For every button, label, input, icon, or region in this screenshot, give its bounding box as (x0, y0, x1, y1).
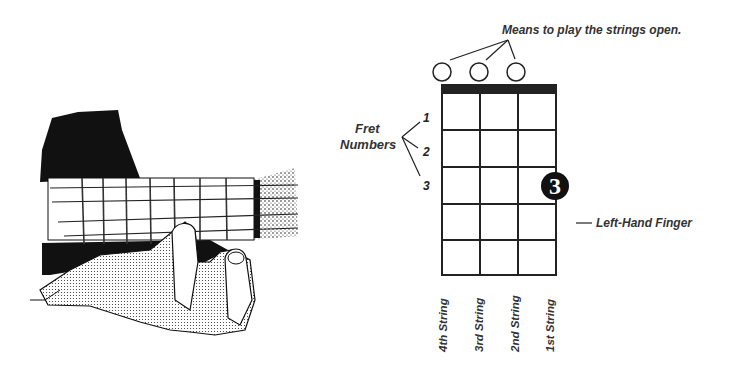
fret-numbers-label-line2: Numbers (340, 137, 396, 152)
fret-grid (442, 85, 556, 275)
open-strings-label: Means to play the strings open. (502, 23, 681, 37)
string-label-1st: 1st String (544, 299, 556, 352)
string-label-3rd: 3rd String (473, 298, 485, 352)
fret-numbers-label-line1: Fret (355, 121, 380, 136)
finger-marker-3: 3 (541, 172, 569, 200)
nut (442, 85, 556, 94)
open-string-circle-4th (433, 63, 451, 81)
string-label-2nd: 2nd String (509, 295, 521, 352)
open-string-markers (433, 63, 525, 81)
fret-number-1: 1 (423, 111, 430, 125)
open-string-circle-2nd (507, 63, 525, 81)
string-label-4th: 4th String (437, 298, 449, 352)
left-hand-finger-label: Left-Hand Finger (596, 216, 692, 230)
open-string-circle-3rd (470, 63, 488, 81)
fret-number-3: 3 (423, 179, 430, 193)
chord-diagram (0, 0, 740, 370)
fret-number-2: 2 (423, 145, 430, 159)
